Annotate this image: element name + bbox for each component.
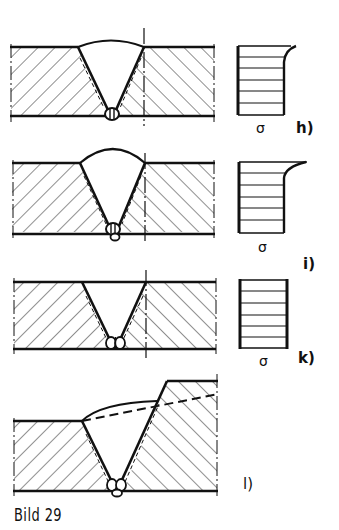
weld-section-h [10,28,215,126]
weld-section-k [13,270,216,360]
subfigure-h: σ h) [10,28,314,137]
stress-diagram-h [238,46,296,115]
stress-symbol-k: σ [259,353,268,369]
label-k: k) [298,349,315,367]
figure-drawing: σ h) [0,0,339,530]
stress-diagram-k [240,279,287,349]
subfigure-i: σ i) [12,149,315,273]
label-h: h) [296,119,314,137]
weld-section-i [12,149,215,242]
subfigure-l: l) [13,374,253,497]
right-plate-hatch [116,47,214,115]
label-i: i) [303,255,315,273]
weld-section-l [13,374,218,497]
figure-caption: Bild 29 [14,505,62,525]
stress-symbol-h: σ [256,120,265,136]
label-l: l) [243,475,253,493]
stress-symbol-i: σ [258,239,267,255]
subfigure-k: σ k) [13,270,315,369]
stress-diagram-i [239,162,307,233]
